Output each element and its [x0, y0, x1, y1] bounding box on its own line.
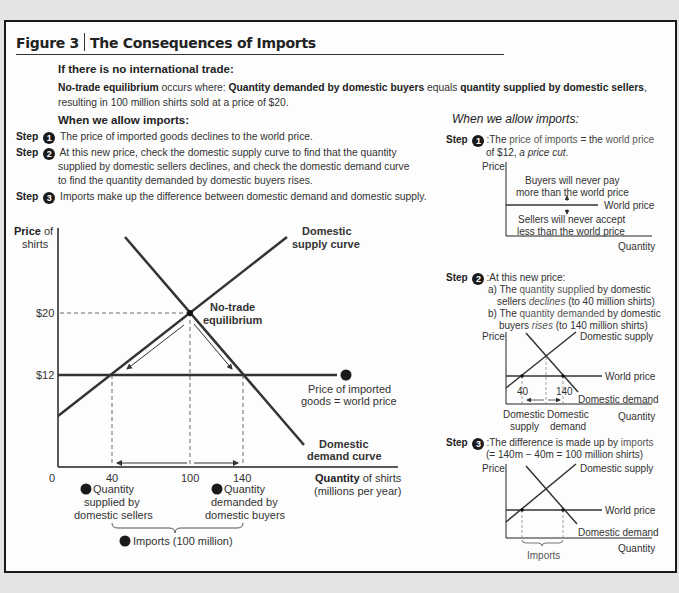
step-3-marker-icon	[120, 536, 131, 547]
text-run: price of imports	[509, 134, 577, 145]
mini2-world-label: World price	[605, 370, 655, 383]
text-run: The	[489, 134, 509, 145]
mini3-x-label: Quantity	[618, 542, 655, 555]
qs-label-3: domestic sellers	[74, 509, 153, 522]
text-run: Quantity	[315, 472, 360, 484]
text-run: The difference is made up by	[489, 437, 621, 448]
side-heading: When we allow imports:	[452, 113, 579, 126]
mini3-demand-label: Domestic demand	[578, 526, 659, 539]
step-2-marker-icon	[81, 484, 92, 495]
equilibrium-label-2: equilibrium	[203, 314, 262, 327]
text-run: .	[566, 147, 569, 158]
text-run: rises	[532, 320, 553, 331]
mini1-world-label: World price	[604, 199, 654, 212]
text-run: imports	[621, 437, 654, 448]
demand-curve	[125, 237, 304, 445]
y-axis-title: Price of	[14, 225, 53, 238]
qd-label-1: Quantity	[224, 483, 265, 496]
mini3-y-label: Price	[482, 462, 505, 475]
text-run: by domestic	[595, 284, 651, 295]
x-axis-title: Quantity of shirts	[315, 472, 401, 485]
side-step-1: Step 1:The price of imports = the world …	[446, 133, 654, 147]
equilibrium-point	[187, 310, 193, 316]
step-1-marker-icon	[341, 370, 352, 381]
text-run: b) The	[488, 308, 520, 319]
side-step-3-line-2: (= 140m − 40m = 100 million shirts)	[486, 448, 643, 461]
text-run: At this new price:	[489, 272, 565, 283]
equilibrium-label-1: No-trade	[210, 301, 255, 314]
text-run: world price	[606, 134, 654, 145]
step-label: Step	[446, 272, 468, 283]
step-label: Step	[446, 134, 468, 145]
demand-label-2: demand curve	[307, 450, 382, 463]
text-run: a price cut	[519, 147, 565, 158]
step-2-marker-icon	[212, 484, 223, 495]
mini3-supply-label: Domestic supply	[580, 462, 653, 475]
mini3-world-label: World price	[605, 504, 655, 517]
text-run: declines	[529, 296, 566, 307]
mini2-tick-140: 140	[556, 385, 573, 398]
side-step-1-line-2: of $12, a price cut.	[486, 146, 568, 159]
text-run: Price	[14, 225, 41, 237]
mini2-dd-2: demand	[550, 420, 586, 433]
mini3-imports-label: Imports	[527, 549, 560, 562]
supply-label-2: supply curve	[292, 238, 360, 251]
mini2-ds-2: supply	[510, 420, 539, 433]
x-tick-0: 0	[49, 472, 55, 485]
text-run: a) The	[488, 284, 520, 295]
mini2-y-label: Price	[482, 330, 505, 343]
text-run: by domestic	[605, 308, 661, 319]
qd-label-3: domestic buyers	[205, 509, 285, 522]
step-number-icon: 2	[472, 273, 484, 285]
mini2-demand-label: Domestic demand	[578, 393, 659, 406]
mini1-y-label: Price	[482, 160, 505, 173]
step-number-icon: 1	[472, 135, 484, 147]
step-label: Step	[446, 437, 468, 448]
text-run: sellers	[497, 296, 529, 307]
mini1-x-label: Quantity	[618, 240, 655, 253]
text-run: of $12,	[486, 147, 519, 158]
qs-label-1: Quantity	[93, 483, 134, 496]
text-run: quantity demanded	[520, 308, 605, 319]
y-axis-title-2: shirts	[22, 238, 48, 251]
qd-label-2: demanded by	[211, 496, 278, 509]
world-price-label-2: goods = world price	[301, 395, 397, 408]
step-number-icon: 3	[472, 438, 484, 450]
arrow-demand-rise	[194, 324, 232, 369]
text-run: quantity supplied	[520, 284, 595, 295]
mini1-below-2: less than the world price	[517, 225, 625, 238]
text-run: (to 40 million shirts)	[565, 296, 654, 307]
mini2-tick-40: 40	[517, 385, 528, 398]
mini2-supply-label: Domestic supply	[580, 330, 653, 343]
imports-brace	[112, 523, 243, 533]
y-tick-12: $12	[36, 369, 54, 382]
mini2-x-label: Quantity	[618, 410, 655, 423]
mini1-above-2: more than the world price	[516, 186, 629, 199]
y-tick-20: $20	[36, 307, 54, 320]
x-tick-100: 100	[181, 472, 199, 485]
arrow-supply-decline	[127, 325, 184, 369]
text-run: of shirts	[360, 472, 402, 484]
supply-label-1: Domestic	[302, 225, 352, 238]
x-axis-title-2: (millions per year)	[314, 485, 401, 498]
text-run: of	[41, 225, 53, 237]
imports-label: Imports (100 million)	[133, 535, 233, 548]
qs-label-2: supplied by	[84, 496, 140, 509]
text-run: = the	[578, 134, 606, 145]
